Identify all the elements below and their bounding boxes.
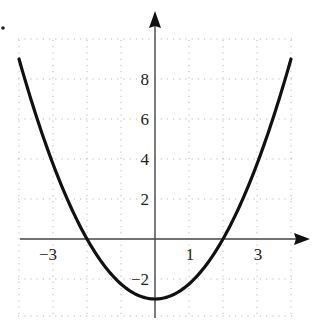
- y-tick-label: 8: [141, 70, 150, 89]
- stray-dot: [1, 26, 5, 30]
- y-axis-arrow-icon: [149, 11, 161, 28]
- parabola-chart: −3138642−2: [0, 0, 325, 321]
- x-axis-arrow-icon: [294, 233, 310, 245]
- x-tick-label: 3: [254, 245, 263, 264]
- y-tick-label: 6: [141, 110, 150, 129]
- y-tick-label: 4: [141, 150, 150, 169]
- y-tick-label: −2: [131, 270, 149, 289]
- y-tick-label: 2: [141, 190, 150, 209]
- axes: [20, 11, 310, 318]
- x-tick-label: 1: [186, 245, 195, 264]
- x-tick-label: −3: [39, 245, 57, 264]
- tick-labels: −3138642−2: [39, 70, 262, 289]
